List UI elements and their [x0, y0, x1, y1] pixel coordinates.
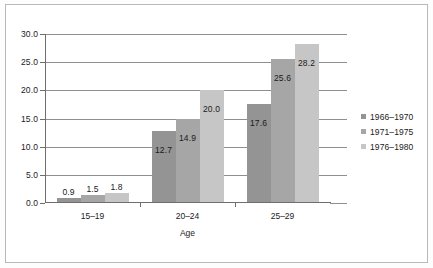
y-tick-right — [330, 203, 347, 204]
legend-item[interactable]: 1976–1980 — [361, 139, 423, 154]
y-axis-line — [45, 34, 46, 203]
y-tick-right — [330, 90, 347, 91]
legend-label: 1976–1980 — [370, 142, 413, 152]
y-axis-tick-label: 20.0 — [21, 85, 38, 95]
legend-swatch-icon — [361, 114, 366, 119]
y-tick-mark — [40, 203, 45, 204]
bar-value-label: 1.8 — [110, 182, 122, 192]
legend-item[interactable]: 1966–1970 — [361, 109, 423, 124]
bar-value-label: 28.2 — [298, 58, 315, 68]
bar-group: 0.91.51.815–19 — [45, 34, 140, 203]
y-axis-tick-label: 0.0 — [26, 198, 38, 208]
y-tick-right — [330, 119, 347, 120]
chart-legend: 1966–19701971–19751976–1980 — [361, 109, 423, 154]
y-axis-tick-label: 25.0 — [21, 57, 38, 67]
bar-value-label: 12.7 — [155, 145, 172, 155]
x-axis-category-label: 15–19 — [81, 211, 105, 221]
x-axis-title: Age — [45, 228, 330, 238]
plot-area: 0.05.010.015.020.025.030.0 0.91.51.815–1… — [45, 34, 330, 203]
bar-value-label: 25.6 — [274, 73, 291, 83]
y-tick-right — [330, 34, 347, 35]
y-axis-tick-label: 10.0 — [21, 142, 38, 152]
x-axis-category-label: 20–24 — [176, 211, 200, 221]
y-axis-tick-label: 5.0 — [26, 170, 38, 180]
y-axis-tick-label: 30.0 — [21, 29, 38, 39]
bar[interactable] — [152, 131, 176, 203]
bar-value-label: 14.9 — [179, 133, 196, 143]
chart-figure: 0.05.010.015.020.025.030.0 0.91.51.815–1… — [0, 0, 433, 268]
x-axis-separator-tick — [235, 203, 236, 207]
bar-group: 17.625.628.225–29 — [235, 34, 330, 203]
bar-value-label: 17.6 — [250, 118, 267, 128]
bar[interactable] — [176, 119, 200, 203]
legend-label: 1971–1975 — [370, 127, 413, 137]
legend-label: 1966–1970 — [370, 112, 413, 122]
x-axis-separator-tick — [140, 203, 141, 207]
y-tick-right — [330, 62, 347, 63]
bar-value-label: 20.0 — [203, 104, 220, 114]
x-axis-category-label: 25–29 — [271, 211, 295, 221]
legend-swatch-icon — [361, 129, 366, 134]
bar-group: 12.714.920.020–24 — [140, 34, 235, 203]
legend-swatch-icon — [361, 144, 366, 149]
y-tick-right — [330, 175, 347, 176]
y-tick-right — [330, 147, 347, 148]
y-axis-tick-label: 15.0 — [21, 114, 38, 124]
bar-value-label: 1.5 — [86, 184, 98, 194]
x-axis-line — [45, 202, 331, 203]
legend-item[interactable]: 1971–1975 — [361, 124, 423, 139]
bar-value-label: 0.9 — [62, 187, 74, 197]
